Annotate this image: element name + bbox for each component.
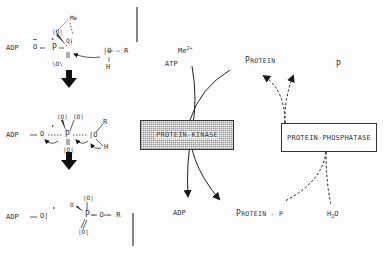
step2-o-right: (O) xyxy=(73,114,84,120)
protein-label-rest: ROTEIN xyxy=(250,57,275,65)
step1-adp: ADP xyxy=(6,45,19,52)
phosphate-label: P xyxy=(336,61,341,69)
protein-return-curve xyxy=(264,76,285,123)
step1-bridge-o: O xyxy=(33,44,37,51)
step2-p: P xyxy=(65,131,70,139)
step3-ester: — O — R xyxy=(91,212,121,219)
protein-phosphatase-box: PROTEIN-PHOSPHATASE xyxy=(281,123,377,152)
step2-adp: ADP xyxy=(6,132,19,139)
down-arrow-1 xyxy=(61,70,77,88)
adp-label: ADP xyxy=(173,210,186,217)
step1-nucleophile: |O — R xyxy=(103,48,128,55)
step2-bridge-o: O xyxy=(40,131,44,138)
protein-p-label-rest: ROTEIN - P xyxy=(241,210,283,218)
step1-o-upper: |O| xyxy=(52,29,63,35)
step1-me: Me xyxy=(70,15,77,21)
protein-p-label: PROTEIN - P xyxy=(236,210,283,218)
step3-leaving-o: O| xyxy=(40,213,48,220)
p-release-curve xyxy=(285,76,293,123)
atp-label: ATP xyxy=(165,61,178,68)
protein-kinase-box: PROTEIN-KINASE xyxy=(140,120,234,150)
water-label: H2O xyxy=(327,211,338,219)
water-o: O xyxy=(334,210,338,218)
step3-o-top: |O| xyxy=(83,195,94,201)
step3-adp: ADP xyxy=(6,214,19,221)
step2-r: R xyxy=(103,119,107,126)
protein-kinase-label: PROTEIN-KINASE xyxy=(155,131,219,139)
down-arrow-2 xyxy=(61,152,77,170)
step1-o-right: O| xyxy=(66,38,73,44)
metal-ion-charge: 2+ xyxy=(186,45,192,51)
step1-p: P xyxy=(52,44,57,52)
step1-h: H xyxy=(106,64,110,71)
protein-phosphatase-label: PROTEIN-PHOSPHATASE xyxy=(287,134,371,142)
protein-p-curve xyxy=(285,152,326,201)
protein-label: PROTEIN xyxy=(245,57,275,65)
step2-h: H xyxy=(104,144,108,151)
step1-o-lower: \O\ xyxy=(52,61,63,67)
h2o-curve xyxy=(326,152,331,205)
step2-ro: |O xyxy=(89,132,97,139)
metal-ion-label: Me2+ xyxy=(178,46,192,55)
step3-o-lower: |O| xyxy=(78,229,89,235)
figure-canvas: ADP O P |O| O| \O\ Me |O — R H ADP O P (… xyxy=(0,0,386,253)
step3-p: P xyxy=(85,211,90,219)
step2-o-lower: |O| xyxy=(63,147,74,153)
step3-o-left: O xyxy=(70,202,74,208)
step2-o-left: (O) xyxy=(57,114,68,120)
